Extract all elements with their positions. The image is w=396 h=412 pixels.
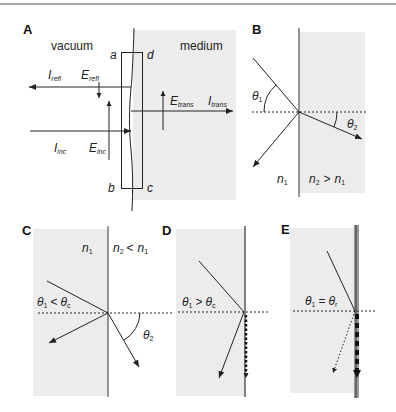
theta2-label: θ2 [143,328,154,342]
resonance-angle-condition: θ1=θr [305,294,338,308]
incident-field-label: Einc [89,141,106,155]
panel-c: C n1 n2<n1 θ1<θc θ2 [22,223,172,397]
n2-gt-n1-label: n2>n1 [309,172,345,186]
theta1-arc [264,85,276,112]
panel-a: A vacuum medium a b c d Irefl Erefl Iinc… [23,22,236,211]
theta1-label: θ1 [252,89,263,103]
panel-label-e: E [281,222,290,237]
medium-label: medium [180,39,223,53]
theta2-arc [124,313,140,340]
panel-label-b: B [252,22,261,37]
corner-label-c: c [147,181,153,195]
n1-label: n1 [277,172,288,186]
refracted-ray [108,313,139,367]
panel-label-a: A [23,22,33,37]
reflected-intensity-label: Irefl [48,68,62,82]
panel-label-d: D [162,223,171,238]
vacuum-label: vacuum [51,39,93,53]
critical-angle-condition: θ1<θc [37,295,71,309]
optics-figure: A vacuum medium a b c d Irefl Erefl Iinc… [0,0,396,412]
critical-angle-condition: θ1>θc [182,295,216,309]
panel-e: E θ1=θr [281,222,377,398]
corner-label-d: d [147,48,154,62]
n2-lt-n1-label: n2<n1 [113,241,148,255]
reflected-ray [253,112,299,167]
panel-b: B θ1 θ2 n1 n2>n1 [252,22,366,197]
panel-d: D θ1>θc [162,223,268,397]
corner-label-a: a [110,48,117,62]
reflected-field-label: Erefl [81,68,99,82]
panel-label-c: C [22,223,32,238]
incident-intensity-label: Iinc [54,141,67,155]
corner-label-b: b [108,181,115,195]
